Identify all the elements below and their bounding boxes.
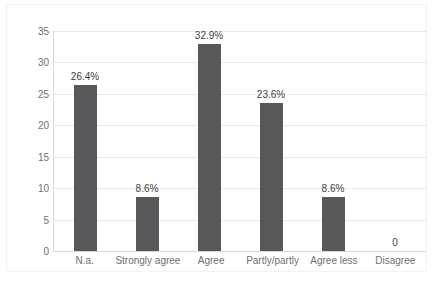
bar-slot: 8.6% [302, 31, 364, 251]
gridline-0 [54, 251, 426, 252]
x-axis-label: Strongly agree [115, 255, 180, 266]
bar[interactable] [322, 197, 345, 251]
x-axis-category-labels: N.a.Strongly agreeAgreePartly/partlyAgre… [54, 255, 426, 266]
y-tick-label-5: 5 [11, 214, 49, 225]
y-tick-label-35: 35 [11, 26, 49, 37]
chart-frame: 05101520253035 26.4%8.6%32.9%23.6%8.6%0 … [6, 4, 427, 272]
bar[interactable] [136, 197, 159, 251]
bar-slot: 8.6% [116, 31, 178, 251]
y-tick-label-0: 0 [11, 246, 49, 257]
x-axis-label: Disagree [365, 255, 426, 266]
bar-value-label: 8.6% [322, 183, 345, 194]
bar[interactable] [260, 103, 283, 251]
bar-value-label: 23.6% [257, 89, 285, 100]
x-axis-label: N.a. [54, 255, 115, 266]
y-tick-label-15: 15 [11, 151, 49, 162]
bar-slot: 32.9% [178, 31, 240, 251]
y-tick-label-10: 10 [11, 183, 49, 194]
y-axis-tick-labels: 05101520253035 [7, 31, 49, 251]
plot-area: 26.4%8.6%32.9%23.6%8.6%0 [54, 31, 426, 251]
bar-value-label: 0 [392, 237, 398, 248]
y-tick-label-30: 30 [11, 57, 49, 68]
bar-slot: 23.6% [240, 31, 302, 251]
y-tick-label-25: 25 [11, 88, 49, 99]
x-axis-label: Agree less [303, 255, 364, 266]
bar[interactable] [74, 85, 97, 251]
bar-value-label: 32.9% [195, 30, 223, 41]
x-axis-label: Agree [180, 255, 241, 266]
bar-slot: 26.4% [54, 31, 116, 251]
bar-value-label: 8.6% [136, 183, 159, 194]
x-axis-label: Partly/partly [242, 255, 303, 266]
bar[interactable] [198, 44, 221, 251]
bar-slot: 0 [364, 31, 426, 251]
bar-value-label: 26.4% [71, 71, 99, 82]
y-tick-label-20: 20 [11, 120, 49, 131]
bar-series: 26.4%8.6%32.9%23.6%8.6%0 [54, 31, 426, 251]
